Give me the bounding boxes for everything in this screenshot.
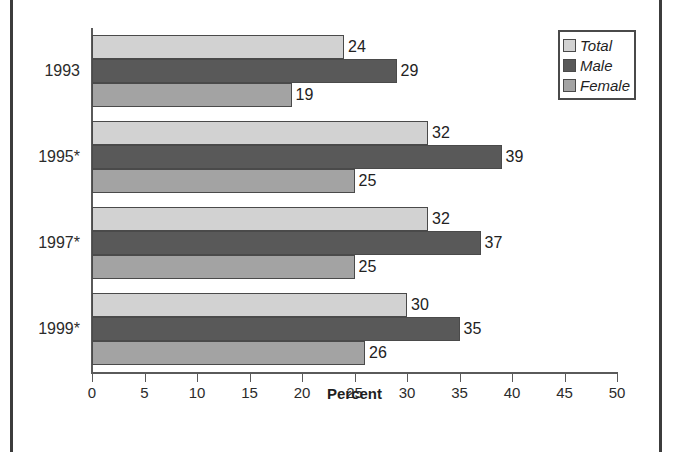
legend-item-total[interactable]: Total — [563, 35, 630, 55]
y-axis-category-labels: 19931995*1997*1999* — [0, 28, 88, 372]
bar-value-label: 32 — [428, 210, 450, 228]
x-axis-tick — [197, 374, 198, 382]
y-axis-category-label: 1995* — [0, 148, 80, 166]
bar-row: 29 — [92, 59, 617, 83]
bar-value-label: 24 — [344, 38, 366, 56]
bar-female[interactable] — [92, 255, 355, 279]
bar-group: 323925 — [92, 114, 617, 200]
legend-swatch-female — [563, 79, 576, 92]
x-axis-tick — [617, 374, 618, 382]
x-axis-tick — [460, 374, 461, 382]
x-axis-title: Percent — [92, 385, 617, 402]
x-axis-tick — [302, 374, 303, 382]
chart-figure: 19931995*1997*1999* 05101520253035404550… — [0, 0, 676, 452]
x-axis-tick — [92, 374, 93, 382]
bar-row: 39 — [92, 145, 617, 169]
bar-value-label: 25 — [355, 172, 377, 190]
bar-value-label: 25 — [355, 258, 377, 276]
legend-item-male[interactable]: Male — [563, 55, 630, 75]
legend-label: Male — [580, 58, 613, 73]
bar-male[interactable] — [92, 317, 460, 341]
bar-female[interactable] — [92, 83, 292, 107]
bar-value-label: 35 — [460, 320, 482, 338]
frame-border-right — [659, 0, 662, 452]
x-axis-tick — [512, 374, 513, 382]
x-axis-tick — [355, 374, 356, 382]
bar-male[interactable] — [92, 59, 397, 83]
bar-row: 30 — [92, 293, 617, 317]
bar-row: 19 — [92, 83, 617, 107]
bar-value-label: 39 — [502, 148, 524, 166]
bar-total[interactable] — [92, 35, 344, 59]
bar-row: 37 — [92, 231, 617, 255]
bar-value-label: 32 — [428, 124, 450, 142]
bar-male[interactable] — [92, 231, 481, 255]
chart-legend: TotalMaleFemale — [558, 30, 636, 100]
bar-group: 242919 — [92, 28, 617, 114]
x-axis-tick — [565, 374, 566, 382]
plot-area: 0510152025303540455024291932392532372530… — [92, 28, 617, 372]
bar-row: 25 — [92, 255, 617, 279]
bar-value-label: 29 — [397, 62, 419, 80]
legend-item-female[interactable]: Female — [563, 75, 630, 95]
y-axis-category-label: 1993 — [0, 62, 80, 80]
legend-swatch-total — [563, 39, 576, 52]
bar-row: 32 — [92, 207, 617, 231]
bar-value-label: 30 — [407, 296, 429, 314]
bar-value-label: 19 — [292, 86, 314, 104]
bar-group: 303526 — [92, 286, 617, 372]
y-axis-category-label: 1997* — [0, 234, 80, 252]
bar-value-label: 26 — [365, 344, 387, 362]
bar-female[interactable] — [92, 169, 355, 193]
bar-female[interactable] — [92, 341, 365, 365]
bar-total[interactable] — [92, 293, 407, 317]
bar-group: 323725 — [92, 200, 617, 286]
bar-row: 24 — [92, 35, 617, 59]
legend-swatch-male — [563, 59, 576, 72]
bar-row: 35 — [92, 317, 617, 341]
legend-label: Total — [580, 38, 612, 53]
x-axis-tick — [250, 374, 251, 382]
y-axis-category-label: 1999* — [0, 320, 80, 338]
x-axis-tick — [145, 374, 146, 382]
bar-value-label: 37 — [481, 234, 503, 252]
bar-male[interactable] — [92, 145, 502, 169]
bar-row: 25 — [92, 169, 617, 193]
legend-label: Female — [580, 78, 630, 93]
bar-total[interactable] — [92, 121, 428, 145]
x-axis-tick — [407, 374, 408, 382]
bar-row: 32 — [92, 121, 617, 145]
bar-row: 26 — [92, 341, 617, 365]
bar-total[interactable] — [92, 207, 428, 231]
